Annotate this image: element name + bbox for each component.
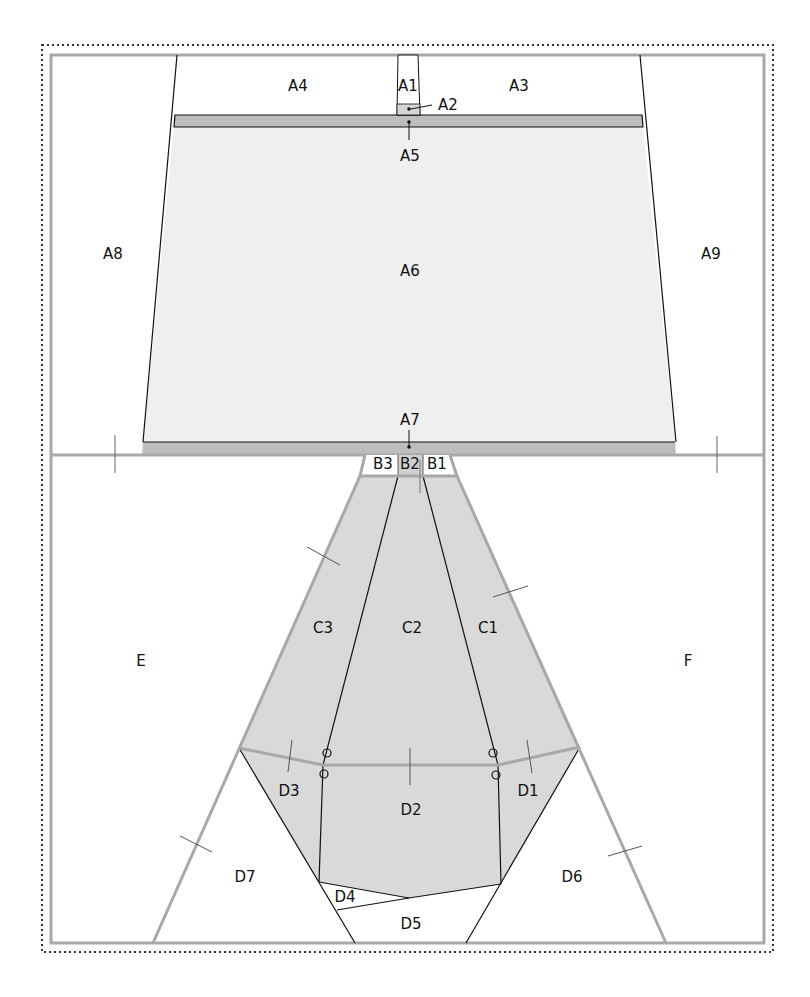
label-f: F	[684, 652, 693, 670]
pattern-diagram: A4 A1 A3 A2 A5 A8 A6 A9 A7 B3 B2 B1 C3 C…	[0, 0, 810, 997]
label-a9: A9	[701, 245, 721, 263]
label-a2: A2	[438, 96, 458, 114]
label-b1: B1	[427, 455, 447, 473]
label-a5: A5	[400, 147, 420, 165]
region-a6	[143, 127, 675, 442]
label-a4: A4	[288, 77, 308, 95]
label-a6: A6	[400, 262, 420, 280]
label-c3: C3	[313, 619, 333, 637]
label-a1: A1	[398, 77, 418, 95]
label-b2: B2	[400, 455, 420, 473]
label-e: E	[136, 652, 145, 670]
label-a7: A7	[400, 411, 420, 429]
label-d4: D4	[334, 888, 355, 906]
label-a8: A8	[103, 245, 123, 263]
label-a3: A3	[509, 77, 529, 95]
label-c1: C1	[478, 619, 498, 637]
label-d5: D5	[400, 915, 421, 933]
label-b3: B3	[373, 455, 393, 473]
label-d2: D2	[400, 801, 421, 819]
label-d7: D7	[234, 868, 255, 886]
label-d3: D3	[278, 782, 299, 800]
label-d1: D1	[517, 782, 538, 800]
label-c2: C2	[402, 619, 422, 637]
label-d6: D6	[561, 868, 582, 886]
